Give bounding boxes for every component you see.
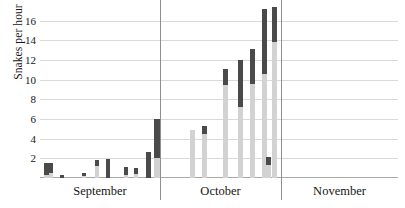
bar [49, 163, 53, 178]
bar [272, 7, 277, 178]
bar-segment-upper [146, 152, 151, 178]
bar-segment-lower [124, 175, 128, 178]
grid-line [40, 80, 398, 81]
bar-segment-upper [202, 126, 207, 134]
x-axis-group-labels: SeptemberOctoberNovember [40, 180, 398, 206]
bar-segment-upper [266, 157, 271, 164]
month-label-november: November [281, 184, 398, 199]
bar-segment-upper [238, 60, 243, 107]
bar [146, 152, 151, 178]
bar-segment-lower [82, 176, 86, 178]
grid-line [40, 40, 398, 41]
bar [266, 157, 271, 178]
bar-segment-lower [95, 166, 99, 178]
bar-segment-upper [124, 167, 128, 174]
bar [60, 175, 64, 178]
bar [95, 160, 99, 178]
snakes-per-hour-bar-chart: Snakes per hour 246810121416 SeptemberOc… [0, 0, 405, 208]
bar [223, 69, 228, 178]
y-tick-label: 12 [25, 55, 36, 66]
bar-segment-lower [266, 165, 271, 178]
grid-line [40, 99, 398, 100]
bar [82, 173, 86, 178]
y-tick-label: 6 [31, 114, 37, 125]
bar-segment-upper [60, 175, 64, 178]
bar-segment-lower [223, 85, 228, 178]
y-tick-label: 16 [25, 15, 36, 26]
month-separator [281, 0, 282, 200]
month-label-october: October [160, 184, 281, 199]
bar-segment-lower [238, 107, 243, 178]
bar-segment-lower [190, 130, 195, 178]
bar-segment-upper [262, 9, 267, 74]
bar-segment-upper [106, 159, 110, 178]
grid-line [40, 60, 398, 61]
grid-line [40, 119, 398, 120]
bar-segment-upper [223, 69, 228, 85]
bar-segment-upper [49, 163, 53, 172]
bar-segment-lower [49, 173, 53, 178]
grid-line [40, 158, 398, 159]
bar [202, 126, 207, 178]
bar-segment-upper [272, 7, 277, 42]
bar [106, 159, 110, 178]
bar [190, 130, 195, 178]
y-tick-label: 14 [25, 35, 36, 46]
bar [262, 9, 267, 178]
y-axis-tick-labels: 246810121416 [0, 6, 40, 178]
bar [134, 168, 138, 178]
bar [124, 167, 128, 178]
grid-line [40, 139, 398, 140]
bar [238, 60, 243, 178]
bar [250, 49, 255, 178]
bar-segment-upper [250, 49, 255, 83]
bar-segment-lower [272, 42, 277, 178]
y-tick-label: 2 [31, 153, 37, 164]
x-axis-line [40, 177, 398, 178]
bar-segment-lower [202, 134, 207, 178]
y-tick-label: 4 [31, 133, 37, 144]
bar-segment-lower [134, 174, 138, 178]
bar-segment-lower [250, 84, 255, 178]
y-tick-label: 8 [31, 94, 37, 105]
y-tick-label: 10 [25, 74, 36, 85]
month-separator [160, 0, 161, 200]
month-label-september: September [40, 184, 160, 199]
grid-line [40, 21, 398, 22]
plot-area [40, 6, 398, 178]
